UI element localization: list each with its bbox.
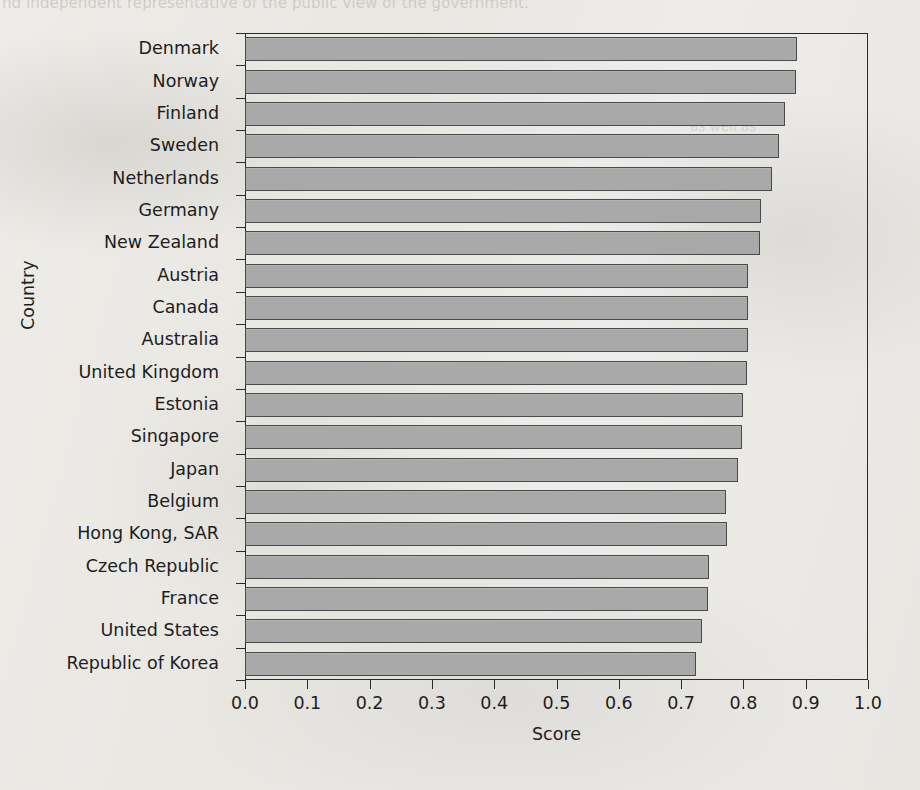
x-tick-label: 0.6 <box>605 693 633 713</box>
bar-row <box>245 486 868 518</box>
y-tick-mark <box>236 259 245 260</box>
y-tick-label: Belgium <box>147 493 219 511</box>
bar-row <box>245 33 868 65</box>
y-tick-mark <box>236 324 245 325</box>
y-tick-label: New Zealand <box>104 234 219 252</box>
bar-row <box>245 518 868 550</box>
y-tick-label: United Kingdom <box>79 364 219 382</box>
y-tick-label: Austria <box>157 267 219 285</box>
bar <box>245 361 747 385</box>
y-tick-mark <box>236 389 245 390</box>
y-tick-mark <box>236 551 245 552</box>
x-tick-label: 0.0 <box>231 693 259 713</box>
y-tick-label: France <box>161 590 219 608</box>
bar-row <box>245 551 868 583</box>
bar <box>245 328 748 352</box>
y-tick-mark <box>236 648 245 649</box>
bar <box>245 522 727 546</box>
x-tick-mark <box>307 680 308 689</box>
bar <box>245 199 761 223</box>
y-tick-label: Japan <box>170 461 219 479</box>
y-tick-mark <box>236 615 245 616</box>
bar-row <box>245 389 868 421</box>
bar <box>245 134 779 158</box>
y-tick-mark <box>236 292 245 293</box>
y-tick-mark <box>236 680 245 681</box>
x-axis-title: Score <box>245 724 868 744</box>
bar-row <box>245 292 868 324</box>
bar <box>245 264 748 288</box>
bar-row <box>245 648 868 680</box>
y-tick-label: Republic of Korea <box>67 655 219 673</box>
y-tick-mark <box>236 486 245 487</box>
x-tick-label: 0.9 <box>792 693 820 713</box>
bar <box>245 587 708 611</box>
x-tick-mark <box>432 680 433 689</box>
y-tick-label: Norway <box>153 73 219 91</box>
bar-row <box>245 583 868 615</box>
x-tick-mark <box>557 680 558 689</box>
bar <box>245 652 696 676</box>
y-tick-mark <box>236 65 245 66</box>
y-tick-mark <box>236 518 245 519</box>
bar <box>245 458 738 482</box>
y-tick-label: Denmark <box>139 40 219 58</box>
x-tick-label: 0.5 <box>543 693 571 713</box>
bar-chart: Country DenmarkNorwayFinlandSwedenNether… <box>0 0 920 790</box>
x-tick-label: 0.3 <box>418 693 446 713</box>
y-tick-mark <box>236 421 245 422</box>
bar-row <box>245 324 868 356</box>
y-tick-label: Hong Kong, SAR <box>77 525 219 543</box>
x-tick-label: 1.0 <box>854 693 882 713</box>
bar-row <box>245 98 868 130</box>
y-tick-mark <box>236 227 245 228</box>
bar <box>245 619 702 643</box>
bar <box>245 167 772 191</box>
y-tick-label: Netherlands <box>112 170 219 188</box>
y-tick-mark <box>236 162 245 163</box>
y-tick-label: Canada <box>152 299 219 317</box>
x-tick-mark <box>245 680 246 689</box>
x-tick-mark <box>868 680 869 689</box>
bar <box>245 555 709 579</box>
y-axis-tick-labels: DenmarkNorwayFinlandSwedenNetherlandsGer… <box>0 33 236 680</box>
y-tick-mark <box>236 98 245 99</box>
bar-row <box>245 227 868 259</box>
bars-container <box>245 33 868 680</box>
y-tick-label: United States <box>100 622 219 640</box>
y-tick-label: Czech Republic <box>86 558 219 576</box>
y-tick-mark <box>236 33 245 34</box>
bar <box>245 231 760 255</box>
bar <box>245 490 726 514</box>
y-tick-label: Australia <box>142 331 219 349</box>
bar <box>245 37 797 61</box>
bar <box>245 425 742 449</box>
y-tick-label: Estonia <box>155 396 219 414</box>
bar-row <box>245 454 868 486</box>
bar <box>245 102 785 126</box>
bar <box>245 296 748 320</box>
x-tick-label: 0.2 <box>356 693 384 713</box>
bar-row <box>245 130 868 162</box>
x-tick-label: 0.7 <box>667 693 695 713</box>
x-tick-label: 0.8 <box>729 693 757 713</box>
y-tick-mark <box>236 583 245 584</box>
y-tick-mark <box>236 195 245 196</box>
y-tick-label: Germany <box>139 202 219 220</box>
x-tick-label: 0.4 <box>480 693 508 713</box>
bar <box>245 70 796 94</box>
x-tick-mark <box>370 680 371 689</box>
y-tick-label: Singapore <box>131 428 219 446</box>
y-tick-label: Finland <box>156 105 219 123</box>
x-tick-mark <box>681 680 682 689</box>
x-tick-label: 0.1 <box>293 693 321 713</box>
y-tick-mark <box>236 454 245 455</box>
bar-row <box>245 357 868 389</box>
y-tick-mark <box>236 357 245 358</box>
bar-row <box>245 421 868 453</box>
bar-row <box>245 259 868 291</box>
bar-row <box>245 65 868 97</box>
bar-row <box>245 195 868 227</box>
x-tick-mark <box>806 680 807 689</box>
bar-row <box>245 162 868 194</box>
